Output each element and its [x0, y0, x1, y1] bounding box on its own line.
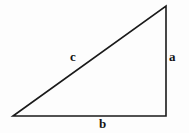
vertical-leg-label-a: a [169, 50, 176, 63]
right-triangle-outline [13, 6, 166, 116]
triangle-diagram: c a b [0, 0, 189, 133]
horizontal-leg-label-b: b [99, 117, 106, 130]
triangle-shape [0, 0, 189, 133]
hypotenuse-label-c: c [70, 50, 76, 63]
